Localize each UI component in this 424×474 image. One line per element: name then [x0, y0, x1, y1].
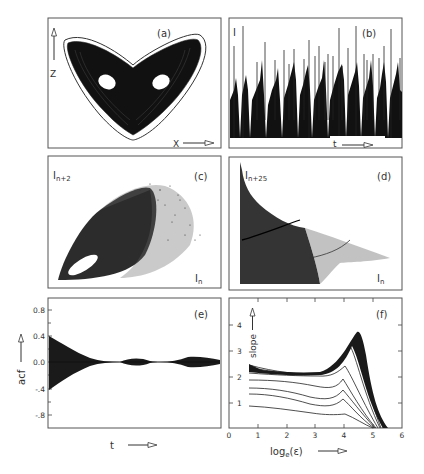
svg-text:6: 6: [400, 431, 405, 440]
svg-text:0: 0: [227, 431, 232, 440]
svg-text:5: 5: [371, 431, 376, 440]
panel-a: (a) Z X: [48, 18, 221, 149]
panel-f-label: (f): [376, 309, 387, 320]
svg-text:0.4: 0.4: [33, 332, 45, 341]
panel-f-xtick-labels: 0 1 2 3 4 5 6: [227, 431, 405, 440]
svg-text:0.8: 0.8: [33, 306, 45, 315]
panel-a-xlabel: X: [173, 139, 179, 149]
t-arrow-head-icon-e: [148, 443, 157, 448]
svg-text:4: 4: [342, 431, 347, 440]
panel-b-ylabel: I: [233, 27, 236, 38]
panel-e-xlabel: t: [110, 440, 114, 451]
panel-e-ylabel: acf: [16, 369, 27, 385]
svg-text:1: 1: [237, 399, 242, 408]
panel-a-label: (a): [157, 28, 171, 39]
svg-text:0.0: 0.0: [33, 358, 45, 367]
panel-b: I (b) t: [229, 18, 402, 149]
panel-c: In+2 (c) In: [48, 156, 221, 288]
figure: (a) Z X: [0, 0, 424, 474]
svg-text:2: 2: [285, 431, 290, 440]
panel-d: In+25 (d) In: [229, 157, 402, 290]
panel-e-label: (e): [194, 309, 208, 320]
panel-c-label: (c): [194, 171, 207, 182]
panel-a-ylabel: Z: [50, 69, 56, 79]
svg-text:-.8: -.8: [35, 411, 45, 420]
svg-text:3: 3: [237, 347, 242, 356]
panel-f-ylabel: slope: [248, 334, 258, 358]
panel-e-ytick-labels: 0.8 0.4 0.0 -.4 -.8: [33, 306, 45, 420]
acf-arrow-head-icon: [19, 334, 24, 342]
svg-text:3: 3: [313, 431, 318, 440]
svg-text:4: 4: [237, 321, 242, 330]
panel-f: 0 1 2 3 4 5 6 1 2 3 4 (f) slope: [227, 298, 405, 459]
panel-e: 0.8 0.4 0.0 -.4 -.8 (e) acf t: [16, 298, 221, 451]
svg-text:-.4: -.4: [35, 385, 45, 394]
svg-text:2: 2: [237, 373, 242, 382]
panel-b-xlabel: t: [333, 139, 337, 149]
panel-d-label: (d): [377, 171, 391, 182]
svg-text:1: 1: [256, 431, 261, 440]
panel-b-label: (b): [362, 28, 376, 39]
panel-f-xlabel: loge(ε): [270, 446, 303, 459]
eps-arrow-head-icon: [338, 449, 347, 454]
